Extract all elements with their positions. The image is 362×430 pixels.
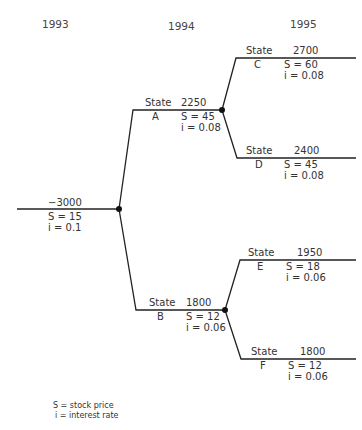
state-a: A <box>152 111 159 123</box>
state-e: E <box>257 261 263 273</box>
state-label-a: State <box>145 97 171 109</box>
node-b-value: 1800 <box>186 297 211 309</box>
node-f-interest-rate: i = 0.06 <box>288 371 328 383</box>
state-d: D <box>255 159 263 171</box>
legend-interest-rate: i = interest rate <box>55 411 119 421</box>
node-d-value: 2400 <box>294 145 319 157</box>
state-label-e: State <box>248 247 274 259</box>
node-d-interest-rate: i = 0.08 <box>284 170 324 182</box>
root-interest-rate: i = 0.1 <box>48 222 81 234</box>
state-c: C <box>254 59 261 71</box>
node-b <box>222 307 228 313</box>
state-label-f: State <box>251 346 277 358</box>
state-label-d: State <box>246 145 272 157</box>
node-a-interest-rate: i = 0.08 <box>181 122 221 134</box>
year-1993: 1993 <box>42 18 69 30</box>
node-f-value: 1800 <box>300 346 325 358</box>
node-a <box>219 107 225 113</box>
node-c-interest-rate: i = 0.08 <box>284 70 324 82</box>
node-e-interest-rate: i = 0.06 <box>286 272 326 284</box>
year-1995: 1995 <box>290 18 317 30</box>
node-c-value: 2700 <box>293 45 318 57</box>
state-label-c: State <box>246 45 272 57</box>
root-node <box>116 206 122 212</box>
node-b-interest-rate: i = 0.06 <box>186 322 226 334</box>
year-1994: 1994 <box>168 20 195 32</box>
state-b: B <box>157 311 164 323</box>
node-a-value: 2250 <box>181 97 206 109</box>
root-value: −3000 <box>48 197 82 209</box>
state-f: F <box>260 360 266 372</box>
legend-stock-price: S = stock price <box>53 401 114 411</box>
node-e-value: 1950 <box>297 247 322 259</box>
state-label-b: State <box>149 297 175 309</box>
